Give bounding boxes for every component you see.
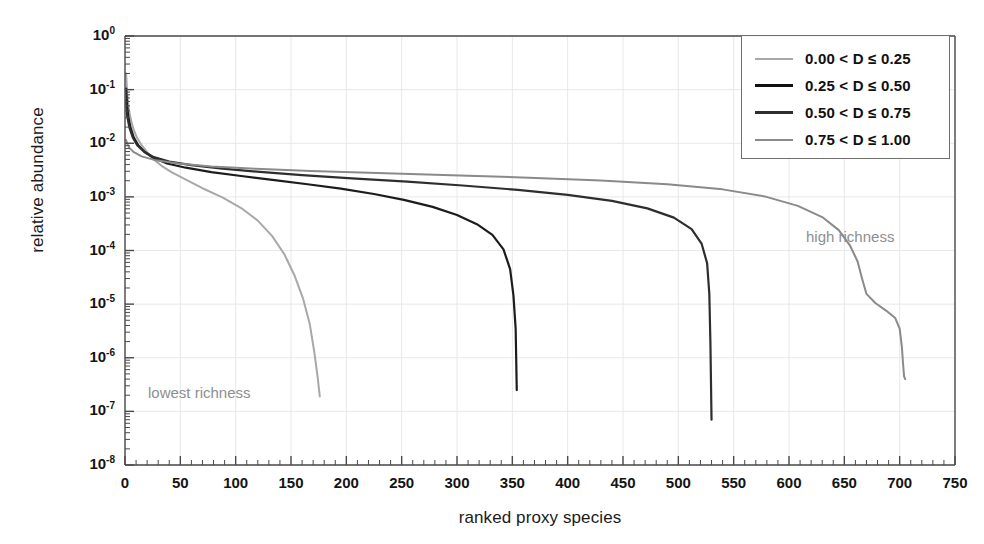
chart-figure: relative abundance ranked proxy species …	[0, 0, 984, 544]
x-tick-label: 50	[150, 474, 210, 491]
annotation-label: high richness	[806, 228, 894, 245]
legend-swatch-icon	[755, 139, 793, 141]
x-tick-label: 200	[316, 474, 376, 491]
y-tick-label: 10-8	[57, 454, 115, 472]
legend-swatch-icon	[755, 111, 793, 114]
y-tick-label: 10-1	[57, 79, 115, 97]
x-tick-label: 400	[538, 474, 598, 491]
y-tick-label: 10-4	[57, 240, 115, 258]
y-tick-label: 10-5	[57, 293, 115, 311]
y-axis-title: relative abundance	[28, 70, 48, 290]
x-tick-label: 550	[704, 474, 764, 491]
x-tick-label: 700	[870, 474, 930, 491]
x-tick-label: 450	[593, 474, 653, 491]
legend-swatch-icon	[755, 84, 793, 87]
annotation-label: lowest richness	[148, 384, 251, 401]
legend-item-label: 0.25 < D ≤ 0.50	[805, 77, 911, 94]
legend-item[interactable]: 0.00 < D ≤ 0.25	[742, 45, 949, 72]
x-tick-label: 250	[372, 474, 432, 491]
x-tick-label: 100	[206, 474, 266, 491]
legend-item[interactable]: 0.50 < D ≤ 0.75	[742, 99, 949, 126]
legend-item-label: 0.75 < D ≤ 1.00	[805, 131, 911, 148]
x-tick-label: 350	[482, 474, 542, 491]
series-line	[126, 88, 517, 390]
legend-item[interactable]: 0.25 < D ≤ 0.50	[742, 72, 949, 99]
x-tick-label: 600	[759, 474, 819, 491]
legend-item-label: 0.50 < D ≤ 0.75	[805, 104, 911, 121]
x-tick-label: 650	[814, 474, 874, 491]
x-tick-label: 300	[427, 474, 487, 491]
y-tick-label: 10-7	[57, 400, 115, 418]
x-tick-label: 500	[648, 474, 708, 491]
y-tick-label: 10-6	[57, 347, 115, 365]
legend: 0.00 < D ≤ 0.25 0.25 < D ≤ 0.50 0.50 < D…	[741, 35, 950, 159]
y-tick-label: 10-2	[57, 132, 115, 150]
legend-item-label: 0.00 < D ≤ 0.25	[805, 50, 911, 67]
x-axis-title: ranked proxy species	[125, 508, 955, 528]
legend-swatch-icon	[755, 58, 793, 60]
y-tick-label: 10-3	[57, 186, 115, 204]
series-line	[126, 101, 711, 420]
legend-item[interactable]: 0.75 < D ≤ 1.00	[742, 126, 949, 153]
y-tick-label: 100	[57, 25, 115, 43]
x-tick-label: 0	[95, 474, 155, 491]
x-tick-label: 750	[925, 474, 984, 491]
x-tick-label: 150	[261, 474, 321, 491]
